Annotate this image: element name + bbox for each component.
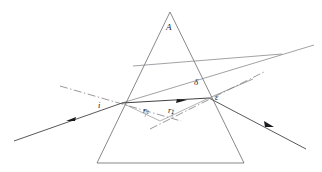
emergence-angle-label: ε: [215, 93, 218, 102]
incident-ray-arrow: [66, 117, 76, 121]
emergent-ray: [209, 98, 306, 149]
prism-refraction-figure: A i r1 r2 δ ε: [0, 0, 322, 172]
incidence-angle-label: i: [98, 101, 100, 110]
refraction-angle-1-subscript: 1: [146, 109, 149, 115]
angle-wedge-line-left: [122, 103, 160, 121]
refraction-angle-1-label: r1: [143, 106, 149, 115]
apex-angle-label: A: [166, 23, 172, 32]
deviation-construction-line: [133, 54, 282, 66]
incident-ray: [14, 103, 122, 141]
prism-triangle: [97, 12, 244, 163]
refraction-angle-2-label: r2: [168, 106, 174, 115]
prism-diagram-svg: [0, 0, 322, 172]
refraction-angle-2-subscript: 2: [171, 109, 174, 115]
deviation-angle-label: δ: [194, 78, 198, 87]
emergent-ray-arrow: [264, 121, 274, 127]
